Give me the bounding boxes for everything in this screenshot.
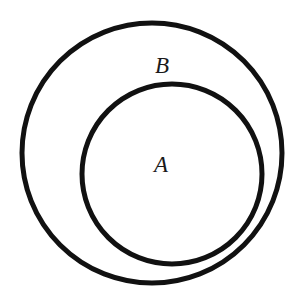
set-a-circle: [82, 84, 262, 264]
venn-diagram: B A: [0, 0, 299, 299]
set-b-label: B: [155, 53, 169, 78]
set-a-label: A: [152, 152, 169, 177]
venn-diagram-svg: B A: [0, 0, 299, 299]
set-b-circle: [22, 23, 282, 283]
